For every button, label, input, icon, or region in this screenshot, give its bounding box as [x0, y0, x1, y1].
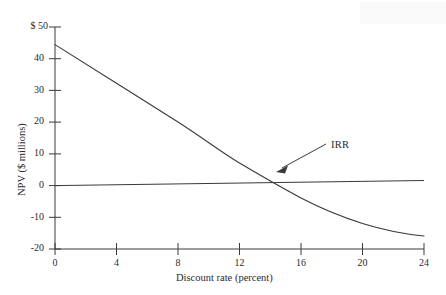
x-tick-label-8: 8: [168, 258, 188, 268]
y-tick-label-40: 40: [6, 53, 44, 63]
y-axis-title: NPV ($ millions): [16, 123, 27, 196]
npv-curve: [55, 45, 424, 236]
x-tick-label-16: 16: [291, 258, 311, 268]
y-tick-label-50: $ 50: [6, 21, 48, 31]
irr-arrowhead: [276, 166, 288, 174]
y-tick-label-neg10: -10: [6, 212, 44, 222]
y-tick-label-30: 30: [6, 85, 44, 95]
x-tick-label-12: 12: [230, 258, 250, 268]
npv-irr-chart: $ 50 40 30 20 10 0 -10 -20 0 4 8 12 16 2…: [0, 0, 446, 295]
x-tick-label-24: 24: [414, 258, 434, 268]
zero-reference-line: [55, 181, 424, 186]
chart-plot-area: [0, 0, 446, 295]
y-tick-label-neg20: -20: [6, 243, 44, 253]
x-tick-label-0: 0: [45, 258, 65, 268]
x-tick-label-4: 4: [107, 258, 127, 268]
irr-leader-line: [282, 144, 326, 168]
irr-annotation-label: IRR: [331, 139, 349, 150]
x-axis-title: Discount rate (percent): [176, 272, 273, 283]
x-tick-label-20: 20: [353, 258, 373, 268]
